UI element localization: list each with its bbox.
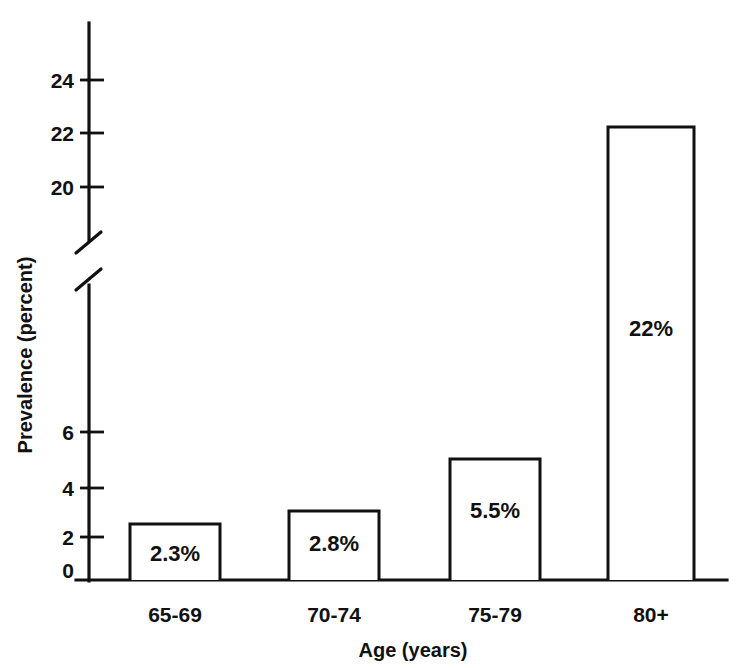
y-tick-label-4: 4 [62,477,74,500]
bar-label-75-79: 5.5% [470,498,520,523]
y-tick-label-2: 2 [62,526,74,549]
chart-figure: 24 22 20 6 4 2 0 Prevalence (percent) 2.… [0,0,744,668]
y-tick-label-6: 6 [62,421,74,444]
bar-label-65-69: 2.3% [150,541,200,566]
y-axis-title: Prevalence (percent) [14,257,36,454]
x-tick-label-75-79: 75-79 [468,603,522,626]
x-tick-label-80-plus: 80+ [633,603,669,626]
bar-chart-canvas: 24 22 20 6 4 2 0 Prevalence (percent) 2.… [0,0,744,668]
bar-label-70-74: 2.8% [309,531,359,556]
x-tick-label-65-69: 65-69 [148,603,202,626]
y-tick-label-22: 22 [51,122,74,145]
bar-label-80-plus: 22% [629,316,673,341]
x-tick-label-70-74: 70-74 [307,603,361,626]
bar-80-plus[interactable] [608,127,694,580]
y-tick-label-24: 24 [51,69,75,92]
y-tick-label-0: 0 [62,559,74,582]
y-tick-label-20: 20 [51,176,74,199]
x-axis-title: Age (years) [359,639,468,661]
